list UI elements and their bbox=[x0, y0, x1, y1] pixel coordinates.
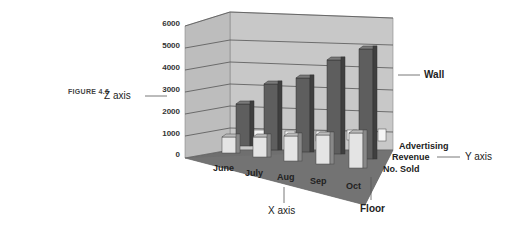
z-tick-5000: 5000 bbox=[152, 41, 180, 50]
x-label-june: June bbox=[213, 163, 234, 173]
wall-annotation: Wall bbox=[424, 69, 444, 80]
x-label-aug: Aug bbox=[277, 172, 295, 182]
x-label-sep: Sep bbox=[310, 176, 327, 186]
y-axis-annotation: Y axis bbox=[465, 151, 492, 162]
z-tick-3000: 3000 bbox=[152, 85, 180, 94]
z-tick-6000: 6000 bbox=[152, 19, 180, 28]
chart-3d bbox=[0, 0, 523, 225]
z-tick-0: 0 bbox=[152, 150, 180, 159]
y-label-no-sold: No. Sold bbox=[383, 164, 420, 174]
x-label-oct: Oct bbox=[346, 181, 361, 191]
y-label-revenue: Revenue bbox=[392, 152, 430, 162]
y-label-advertising: Advertising bbox=[399, 141, 449, 151]
z-tick-1000: 1000 bbox=[152, 129, 180, 138]
floor-annotation: Floor bbox=[360, 203, 385, 214]
x-axis-annotation: X axis bbox=[268, 205, 295, 216]
z-tick-4000: 4000 bbox=[152, 63, 180, 72]
z-tick-2000: 2000 bbox=[152, 107, 180, 116]
z-axis-annotation: Z axis bbox=[104, 90, 131, 101]
x-label-july: July bbox=[245, 168, 263, 178]
